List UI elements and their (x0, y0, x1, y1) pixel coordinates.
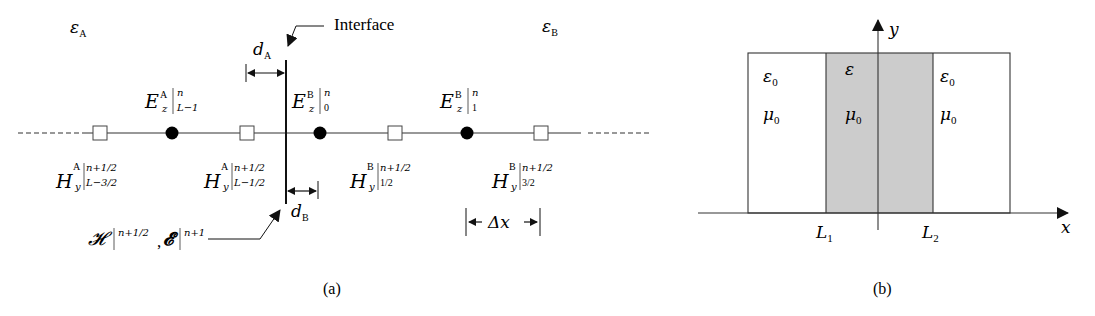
interface-pointer (288, 26, 324, 46)
svg-text:z: z (456, 103, 463, 114)
e-label-B-0: E B z n 0 (291, 87, 330, 114)
svg-text:n: n (324, 87, 330, 98)
svg-text:L−1: L−1 (176, 102, 198, 113)
svg-text:E: E (144, 90, 159, 112)
svg-text:0: 0 (324, 102, 329, 113)
h-label-B-3/2: H B y n+1/2 3/2 (491, 161, 553, 192)
region-label-b: εB (542, 16, 558, 38)
y-axis-label: y (888, 19, 899, 39)
svg-text:,: , (157, 232, 161, 251)
svg-text:B: B (509, 161, 516, 172)
svg-text:3/2: 3/2 (522, 177, 535, 188)
annotation-h-e: 𝓗 n+1/2 , 𝓔 n+1 (88, 227, 205, 251)
svg-text:n: n (177, 87, 183, 98)
h-node-square (534, 126, 548, 140)
caption-b: (b) (873, 280, 892, 298)
panel-b: x y ε0 μ0 ε μ0 ε0 μ0 L1 L2 (b) (698, 19, 1071, 298)
svg-text:n: n (472, 87, 478, 98)
svg-text:A: A (73, 161, 81, 172)
interface-label: Interface (334, 15, 394, 34)
svg-text:𝓗: 𝓗 (88, 227, 113, 249)
e-node-circle (166, 127, 179, 140)
right-mu: μ0 (940, 104, 957, 126)
svg-text:n+1/2: n+1/2 (118, 227, 149, 238)
e-label-A-L-1: E A z n L−1 (144, 87, 198, 114)
svg-text:A: A (160, 89, 168, 100)
svg-text:B: B (455, 89, 462, 100)
dB-label: dB (291, 201, 309, 223)
svg-text:y: y (74, 181, 81, 192)
e-node-circle (314, 127, 327, 140)
svg-text:n+1/2: n+1/2 (86, 162, 117, 173)
region-label-a: εA (70, 17, 87, 39)
middle-region-shade (826, 53, 933, 213)
svg-text:H: H (55, 170, 73, 192)
L1-label: L1 (815, 222, 833, 244)
svg-text:n+1: n+1 (184, 227, 205, 238)
svg-text:B: B (307, 89, 314, 100)
middle-eps: ε (845, 59, 854, 79)
svg-text:B: B (367, 161, 374, 172)
svg-text:𝓔: 𝓔 (163, 228, 179, 249)
svg-text:y: y (222, 181, 229, 192)
svg-text:z: z (161, 103, 168, 114)
svg-text:1: 1 (472, 102, 477, 113)
h-node-square (93, 126, 107, 140)
svg-text:E: E (291, 90, 306, 112)
annotation-pointer (208, 210, 280, 239)
dA-label: dA (253, 39, 272, 61)
x-axis-label: x (1061, 217, 1071, 237)
left-mu: μ0 (763, 104, 780, 126)
svg-text:y: y (368, 181, 375, 192)
svg-text:n+1/2: n+1/2 (522, 162, 553, 173)
svg-text:L−1/2: L−1/2 (233, 177, 265, 188)
svg-text:n+1/2: n+1/2 (380, 162, 411, 173)
svg-text:H: H (491, 170, 509, 192)
panel-a: εA εB Interface dA dB Δx E A z n L−1 E B… (18, 15, 652, 298)
h-label-A-L-3/2: H A y n+1/2 L−3/2 (55, 161, 117, 192)
e-node-circle (461, 127, 474, 140)
svg-text:A: A (221, 161, 229, 172)
svg-text:L−3/2: L−3/2 (85, 177, 117, 188)
left-eps: ε0 (763, 66, 778, 88)
figure-canvas: εA εB Interface dA dB Δx E A z n L−1 E B… (0, 0, 1095, 316)
svg-text:E: E (439, 90, 454, 112)
h-node-square (240, 126, 254, 140)
svg-text:H: H (349, 170, 367, 192)
h-node-square (388, 126, 402, 140)
right-eps: ε0 (940, 66, 955, 88)
h-label-A-L-1/2: H A y n+1/2 L−1/2 (203, 161, 265, 192)
svg-text:y: y (510, 181, 517, 192)
caption-a: (a) (323, 280, 341, 298)
e-label-B-1: E B z n 1 (439, 87, 478, 114)
svg-text:z: z (308, 103, 315, 114)
svg-text:n+1/2: n+1/2 (234, 162, 265, 173)
L2-label: L2 (921, 222, 939, 244)
dx-label: Δx (487, 212, 510, 232)
svg-text:1/2: 1/2 (380, 177, 393, 188)
h-label-B-1/2: H B y n+1/2 1/2 (349, 161, 411, 192)
svg-text:H: H (203, 170, 221, 192)
